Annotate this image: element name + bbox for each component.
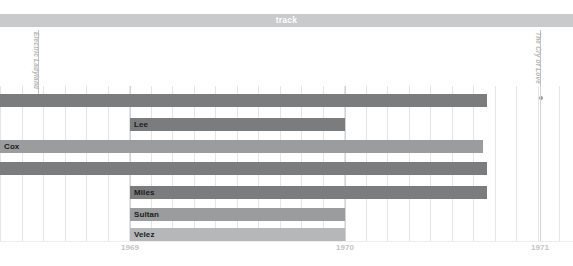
x-axis: 196919701971 [0,241,573,266]
bar-track[interactable] [0,94,487,107]
gridline [495,86,496,241]
gantt-timeline-chart: track Electric LadylandThe Cry of Love L… [0,0,573,266]
bar-sultan[interactable]: Sultan [130,208,345,221]
event-label: Electric Ladyland [33,32,40,89]
axis-tick-label: 1969 [121,243,139,252]
bar-label: Sultan [134,208,159,221]
track-banner: track [0,14,573,27]
axis-tick-label: 1971 [531,243,549,252]
bar-cox[interactable]: Cox [0,140,483,153]
gridline [538,86,539,241]
bar-label: Cox [4,140,19,153]
gridline [540,86,541,241]
track-banner-label: track [0,14,573,27]
bar-lee[interactable]: Lee [130,118,345,131]
event-label: The Cry of Love [535,32,542,84]
bar-velez[interactable]: Velez [130,228,345,241]
bar-label: Velez [134,228,155,241]
bar-label: Lee [134,118,148,131]
axis-tick-label: 1970 [336,243,354,252]
plot-area: LeeCoxMilesSultanVelez [0,86,573,241]
bar-track[interactable] [0,162,487,175]
gridline [559,86,560,241]
gridline [516,86,517,241]
bar-miles[interactable]: Miles [130,186,487,199]
axis-rule [0,241,573,242]
bar-label: Miles [134,186,155,199]
